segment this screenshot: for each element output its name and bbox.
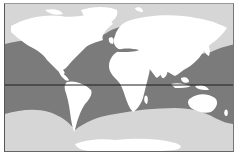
world-map-svg (5, 4, 234, 152)
world-map (4, 3, 234, 152)
